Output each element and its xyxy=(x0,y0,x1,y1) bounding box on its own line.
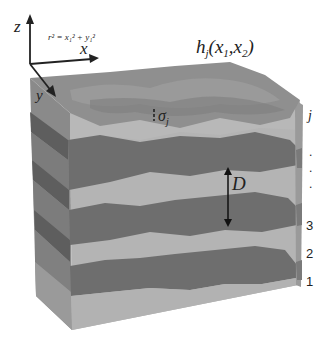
layer-label-ellipsis: . xyxy=(309,161,312,175)
multilayer-diagram: z x y r² = x₁² + y₁² hj(x1,x2) σj D j . … xyxy=(0,0,331,341)
layer-label-ellipsis: . xyxy=(309,177,312,191)
x-axis-arrowhead-icon xyxy=(89,54,99,63)
spacing-d-label: D xyxy=(231,173,246,194)
layer-label-ellipsis: . xyxy=(309,145,312,159)
z-axis-arrowhead-icon xyxy=(26,14,34,24)
block-right-face xyxy=(295,100,303,287)
multilayer-block-figure: z x y r² = x₁² + y₁² hj(x1,x2) σj D j . … xyxy=(0,0,331,341)
x-axis xyxy=(30,59,92,64)
z-axis-label: z xyxy=(13,17,21,36)
block-left-face xyxy=(30,78,72,330)
layer-index-labels: j . . . 3 2 1 xyxy=(306,108,313,289)
layer-label-2: 2 xyxy=(306,246,313,261)
layer-label-j: j xyxy=(306,108,312,123)
layer-label-1: 1 xyxy=(306,274,313,289)
surface-height-label: hj(x1,x2) xyxy=(196,36,254,59)
radius-formula: r² = x₁² + y₁² xyxy=(48,32,95,42)
layer-label-3: 3 xyxy=(306,218,313,233)
y-axis-label: y xyxy=(34,87,43,103)
block-front-face xyxy=(68,100,300,330)
